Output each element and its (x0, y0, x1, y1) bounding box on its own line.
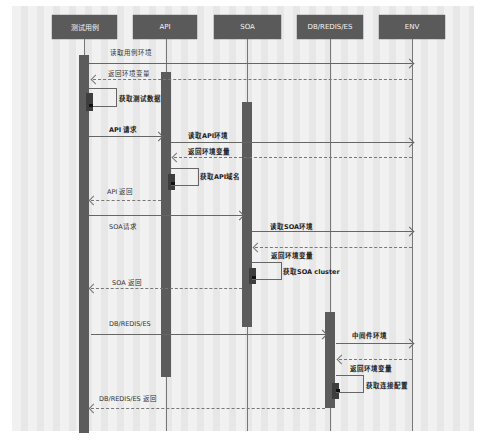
message-label: 获取测试数据 (119, 93, 161, 103)
message-arrow (171, 142, 412, 143)
message-arrow (89, 63, 412, 64)
message-label: 获取API域名 (200, 171, 240, 181)
message-arrow (252, 231, 412, 232)
message-arrow (91, 334, 325, 335)
message-arrow (339, 359, 412, 360)
self-call-loop (252, 262, 282, 280)
message-label: 读取API环境 (188, 130, 228, 140)
message-label: API 返回 (107, 186, 133, 196)
arrowhead-icon (336, 389, 340, 392)
message-label: 返回环境变量 (108, 68, 150, 78)
message-label: 返回环境变量 (350, 363, 392, 373)
self-call-loop (89, 88, 117, 107)
message-arrow (89, 215, 242, 216)
message-label: 读取SOA环境 (270, 221, 313, 231)
participant-testcase: 测试用例 (52, 15, 117, 39)
message-label: API 请求 (109, 124, 137, 134)
message-arrow (91, 200, 161, 201)
participant-db: DB/REDIS/ES (297, 15, 363, 39)
message-arrow (89, 136, 161, 137)
activation-testcase (79, 55, 89, 433)
message-arrow (93, 79, 412, 80)
message-label: DB/REDIS/ES 返回 (99, 393, 157, 403)
participant-soa: SOA (214, 15, 281, 39)
arrowhead-icon (89, 104, 93, 107)
self-call-loop (336, 375, 364, 393)
message-label: DB/REDIS/ES (109, 320, 151, 328)
message-label: 读取用例环境 (110, 47, 152, 57)
message-arrow (336, 343, 412, 344)
message-arrow (91, 408, 325, 409)
participant-api: API (133, 15, 197, 39)
message-label: 返回环境变量 (271, 250, 313, 260)
message-label: 中间件环境 (352, 330, 387, 340)
message-arrow (174, 157, 412, 158)
arrowhead-icon (171, 182, 175, 185)
message-label: SOA 返回 (112, 277, 142, 287)
message-arrow (255, 247, 412, 248)
activation-api (161, 72, 171, 377)
message-label: 获取SOA cluster (283, 266, 340, 276)
message-label: SOA请求 (109, 221, 137, 231)
lifeline-env (412, 39, 413, 431)
arrowhead-icon (252, 276, 256, 279)
message-label: 获取连接配置 (366, 380, 408, 390)
participant-env: ENV (379, 15, 445, 39)
message-arrow (91, 288, 242, 289)
self-call-loop (171, 168, 199, 186)
message-label: 返回环境变量 (188, 146, 230, 156)
